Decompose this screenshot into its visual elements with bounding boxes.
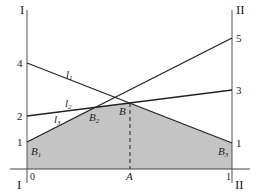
left-tick-4: 4 [17, 57, 23, 69]
left-axis-label: I [20, 2, 24, 17]
right-axis-label: II [236, 2, 245, 17]
point-A-label: A [125, 170, 133, 182]
label-l2: l2 [65, 97, 72, 111]
label-l1: l1 [66, 68, 73, 82]
right-tick-5: 5 [236, 32, 242, 44]
right-tick-1: 1 [236, 137, 242, 149]
label-l3: l3 [54, 113, 61, 127]
lower-envelope-diagram: I II 4 2 1 5 3 1 l1 l2 l3 B1 B2 B B3 I 0… [0, 0, 260, 196]
origin-left-label: I [17, 177, 21, 192]
right-tick-3: 3 [236, 84, 242, 96]
left-tick-1: 1 [17, 136, 23, 148]
x-one-label: 1 [226, 171, 231, 182]
label-B: B [119, 105, 126, 117]
origin-right-label: II [235, 177, 244, 192]
x-zero-label: 0 [30, 171, 35, 182]
left-tick-2: 2 [17, 110, 23, 122]
